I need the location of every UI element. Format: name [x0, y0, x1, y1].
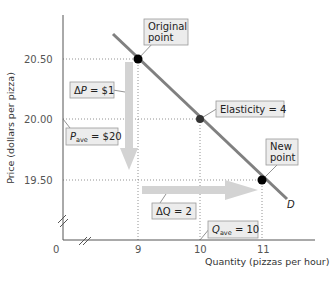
new-point-box: New point	[266, 139, 298, 165]
elasticity-box: Elasticity = 4	[216, 101, 286, 117]
x-tick-11: 11	[257, 244, 270, 255]
q-ave-rest: = 10	[232, 224, 259, 235]
p-ave-rest: = $20	[88, 131, 122, 142]
x-tick-0: 0	[53, 244, 59, 255]
delta-q-box: ΔQ = 2	[152, 203, 196, 219]
new-point-marker	[258, 176, 267, 185]
original-point-marker	[134, 55, 143, 64]
q-ave-var: Q	[212, 224, 220, 235]
x-tick-10: 10	[194, 244, 207, 255]
new-point-label-2: point	[270, 152, 296, 163]
q-ave-box: Qave = 10	[208, 221, 259, 238]
y-tick-2000: 20.00	[24, 114, 53, 125]
delta-p-box: ΔP = $1	[70, 82, 114, 98]
elasticity-diagram: Original point Elasticity = 4 New point …	[0, 0, 332, 281]
svg-text:ΔP = $1: ΔP = $1	[74, 85, 114, 96]
p-ave-box: Pave = $20	[66, 128, 122, 145]
new-point-label-1: New	[270, 141, 292, 152]
q-ave-sub: ave	[220, 229, 232, 237]
y-tick-2050: 20.50	[24, 54, 53, 65]
y-axis-label: Price (dollars per pizza)	[5, 72, 16, 184]
original-point-label-2: point	[148, 32, 174, 43]
demand-label: D	[287, 199, 295, 210]
original-point-box: Original point	[144, 19, 188, 45]
elasticity-point-marker	[196, 115, 204, 123]
x-tick-9: 9	[135, 244, 141, 255]
elasticity-label: Elasticity = 4	[220, 104, 286, 115]
p-ave-sub: ave	[76, 136, 88, 144]
original-point-label-1: Original	[148, 21, 187, 32]
delta-p-arrow	[120, 62, 138, 170]
delta-q-label: ΔQ = 2	[156, 206, 192, 217]
x-axis-label: Quantity (pizzas per hour)	[205, 256, 329, 267]
y-tick-1950: 19.50	[24, 175, 53, 186]
delta-p-rest: = $1	[87, 85, 114, 96]
